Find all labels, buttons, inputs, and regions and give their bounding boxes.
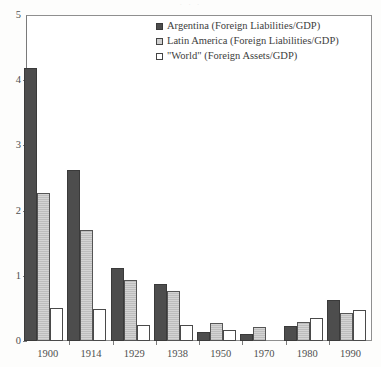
legend-label: "World" (Foreign Assets/GDP) (167, 51, 297, 62)
y-tick-label: 1 (8, 271, 21, 282)
bar-1980-series-2 (310, 318, 323, 341)
bar-1970-series-0 (240, 334, 253, 341)
bar-1900-series-1 (37, 193, 50, 341)
bar-1990-series-0 (327, 300, 340, 341)
x-tick-mark (113, 341, 114, 345)
x-tick-mark (242, 341, 243, 345)
x-tick-label-1980: 1980 (297, 349, 318, 360)
scan-artifact-strip: · · · (0, 0, 381, 9)
y-tick-label: 0 (8, 336, 21, 347)
bar-1938-series-1 (167, 291, 180, 341)
bar-1950-series-0 (197, 332, 210, 341)
legend-swatch-icon (156, 38, 163, 45)
bar-1938-series-2 (180, 325, 193, 341)
legend-swatch-icon (156, 53, 163, 60)
x-tick-mark (69, 341, 70, 345)
x-axis: 19001914192919381950197019801990 (26, 341, 372, 367)
x-tick-label-1900: 1900 (37, 349, 58, 360)
bar-1990-series-2 (353, 310, 366, 341)
y-tick-label: 2 (8, 205, 21, 216)
x-tick-mark (286, 341, 287, 345)
legend-item-2: "World" (Foreign Assets/GDP) (156, 49, 366, 64)
x-tick-label-1970: 1970 (253, 349, 274, 360)
x-tick-label-1938: 1938 (167, 349, 188, 360)
x-tick-mark (199, 341, 200, 345)
bar-1929-series-1 (124, 280, 137, 341)
legend-item-1: Latin America (Foreign Liabilities/GDP) (156, 34, 366, 49)
bar-1970-series-1 (253, 327, 266, 341)
y-tick-label: 5 (8, 10, 21, 21)
bar-1980-series-0 (284, 326, 297, 341)
legend-swatch-icon (156, 23, 163, 30)
bar-1914-series-0 (67, 170, 80, 341)
bar-1914-series-1 (80, 230, 93, 341)
y-axis: 012345 (0, 0, 26, 367)
x-tick-mark (329, 341, 330, 345)
legend-label: Argentina (Foreign Liabilities/GDP) (167, 21, 320, 32)
bar-1929-series-0 (111, 268, 124, 341)
bar-1914-series-2 (93, 309, 106, 341)
bar-1990-series-1 (340, 313, 353, 341)
legend-item-0: Argentina (Foreign Liabilities/GDP) (156, 19, 366, 34)
y-tick-label: 4 (8, 75, 21, 86)
bar-1900-series-0 (24, 68, 37, 341)
x-tick-mark (156, 341, 157, 345)
bar-1938-series-0 (154, 284, 167, 341)
chart-legend: Argentina (Foreign Liabilities/GDP)Latin… (156, 19, 366, 64)
y-tick-label: 3 (8, 140, 21, 151)
bar-1950-series-2 (223, 330, 236, 341)
x-tick-label-1990: 1990 (340, 349, 361, 360)
bar-1929-series-2 (137, 325, 150, 341)
bar-1950-series-1 (210, 323, 223, 341)
chart-figure: · · · 012345 190019141929193819501970198… (0, 0, 381, 367)
bar-1980-series-1 (297, 322, 310, 341)
x-tick-label-1950: 1950 (210, 349, 231, 360)
legend-label: Latin America (Foreign Liabilities/GDP) (167, 36, 339, 47)
x-tick-label-1914: 1914 (80, 349, 101, 360)
bar-1900-series-2 (50, 308, 63, 341)
x-tick-label-1929: 1929 (124, 349, 145, 360)
